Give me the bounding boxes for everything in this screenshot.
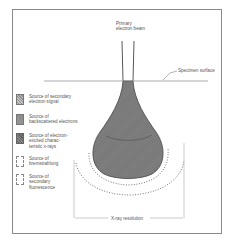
dashed-swatch <box>16 174 24 185</box>
hatched-light-swatch <box>16 94 24 105</box>
legend-characteristic-xrays: Source of electron- excited charac- teri… <box>16 133 88 153</box>
hatched-dark-swatch <box>16 133 24 144</box>
legend-secondary-electrons: Source of secondary electron signal <box>16 94 88 114</box>
solid-gray-swatch <box>16 114 24 125</box>
surface-label: Specimen surface <box>178 68 215 73</box>
surface-leader <box>163 71 177 80</box>
dashed-swatch <box>16 156 24 167</box>
electron-beam <box>122 41 134 81</box>
resolution-label: X-ray resolution <box>111 216 143 221</box>
interaction-volume <box>93 81 163 179</box>
legend-bremsstrahlung: Source of bremstrahlung <box>16 156 88 176</box>
legend-secondary-fluorescence: Source of secondary fluorescence <box>16 174 88 194</box>
beam-label: Primary electron beam <box>116 21 145 32</box>
legend-backscattered: Source of backscattered electrons <box>16 114 88 134</box>
